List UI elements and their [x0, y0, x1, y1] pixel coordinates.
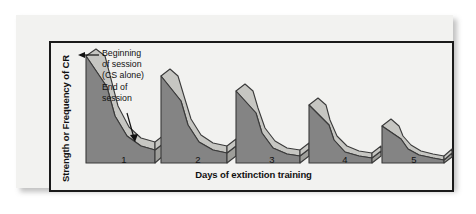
x-tick-1: 1 — [114, 153, 134, 167]
figure-outer-panel: Beginning of session (CS alone) End of s… — [16, 15, 453, 188]
session-annotation: Beginning of session (CS alone) End of s… — [102, 48, 144, 104]
annotation-line-4: End of — [102, 82, 144, 93]
annotation-line-5: session — [102, 93, 144, 104]
curve-day-3 — [236, 84, 309, 163]
x-axis-label: Days of extinction training — [51, 169, 456, 180]
annotation-line-1: Beginning — [102, 48, 144, 59]
curve-day-2 — [161, 69, 236, 163]
y-axis-label: Strength or Frequency of CR — [59, 45, 73, 192]
x-tick-4: 4 — [335, 153, 355, 167]
x-tick-5: 5 — [404, 153, 424, 167]
x-axis-tick-labels: 1 2 3 4 5 — [51, 153, 456, 167]
figure-root: Beginning of session (CS alone) End of s… — [0, 0, 476, 214]
plot-area: Beginning of session (CS alone) End of s… — [49, 41, 454, 192]
x-tick-3: 3 — [262, 153, 282, 167]
x-tick-2: 2 — [188, 153, 208, 167]
annotation-line-2: of session — [102, 59, 144, 70]
annotation-line-3: (CS alone) — [102, 70, 144, 81]
